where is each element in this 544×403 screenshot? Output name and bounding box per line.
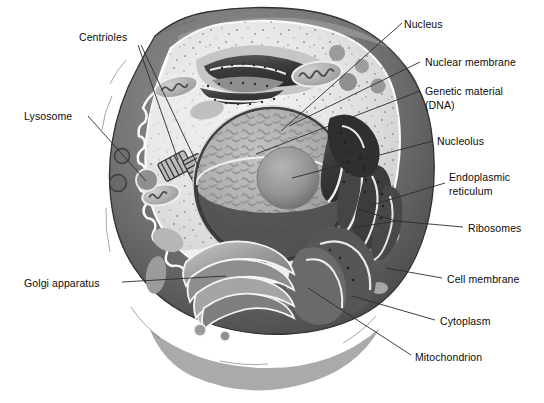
label-golgi-apparatus: Golgi apparatus — [24, 277, 100, 290]
cell-diagram-figure: Centrioles Lysosome Golgi apparatus Nucl… — [0, 0, 544, 403]
label-genetic-material-2: (DNA) — [425, 99, 455, 112]
label-endoplasmic-2: reticulum — [449, 185, 493, 198]
label-mitochondrion: Mitochondrion — [415, 351, 482, 364]
label-cytoplasm: Cytoplasm — [440, 315, 491, 328]
label-nucleus: Nucleus — [404, 18, 443, 31]
label-cell-membrane: Cell membrane — [447, 273, 520, 286]
label-nucleolus: Nucleolus — [437, 135, 484, 148]
label-ribosomes: Ribosomes — [468, 222, 521, 235]
label-genetic-material: Genetic material — [425, 85, 503, 98]
label-nuclear-membrane: Nuclear membrane — [425, 56, 516, 69]
label-centrioles: Centrioles — [79, 31, 127, 44]
label-lysosome: Lysosome — [24, 110, 72, 123]
label-endoplasmic: Endoplasmic — [449, 171, 510, 184]
